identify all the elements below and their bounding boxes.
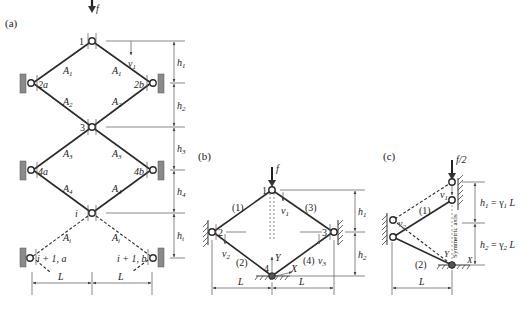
x-axis-arrow-icon [276, 272, 292, 276]
panel-c: (c) f/2 [382, 150, 516, 295]
node-top-displaced [449, 197, 455, 203]
member-label-4: (4) [303, 255, 315, 267]
node-top-original [449, 179, 455, 185]
node-label-i1b: i + 1, b [117, 253, 147, 264]
node-label-2: 2 [218, 227, 223, 238]
member-4 [272, 232, 333, 276]
span-label-left: L [57, 271, 64, 282]
member-label-3: (3) [305, 202, 317, 214]
svg-text:hi: hi [177, 230, 184, 243]
load-label: f/2 [456, 154, 467, 165]
load-label: f [96, 3, 100, 14]
member-ai-right [92, 213, 152, 257]
wall-support-i1a [20, 248, 26, 267]
load-arrow-icon [448, 160, 456, 180]
member-label-1: (1) [419, 205, 431, 217]
node-2b [150, 80, 156, 86]
node-base [449, 262, 456, 269]
svg-text:Ai: Ai [111, 232, 120, 245]
member-label-1: (1) [232, 202, 244, 214]
span-label-left: L [237, 276, 244, 287]
panel-b: (b) f [198, 150, 367, 295]
member-ai-left [32, 213, 92, 257]
node-label-2a: 2a [38, 79, 48, 90]
wall-support-i1b [158, 248, 164, 267]
node-1 [89, 38, 95, 44]
node-3 [89, 124, 95, 130]
span-dimensions [32, 272, 152, 295]
node-2a [28, 80, 34, 86]
node-label-1: 1 [79, 36, 84, 47]
truss-diagram: (a) f [0, 0, 530, 310]
node-i1a [27, 255, 33, 261]
v1-label: v1 [440, 189, 448, 202]
node-label-i: i [75, 208, 78, 219]
member-label-2: (2) [236, 257, 248, 269]
load-label: f [276, 163, 280, 174]
svg-text:h1: h1 [177, 57, 186, 70]
h2-equation: h2 = γ2 L [480, 239, 516, 252]
svg-text:A1: A1 [62, 65, 73, 78]
span-label-right: L [298, 276, 305, 287]
svg-text:A3: A3 [111, 148, 122, 161]
v2-label: v2 [398, 218, 406, 231]
member-a1-left [33, 41, 92, 83]
panel-a-label: (a) [5, 17, 18, 30]
panel-c-label: (c) [383, 150, 396, 163]
node-i [89, 210, 95, 216]
panel-b-label: (b) [198, 150, 211, 163]
node-label-i1a: i + 1, a [37, 253, 67, 264]
node-label-1: 1 [262, 185, 267, 196]
wall-support-4a [20, 161, 26, 180]
svg-text:A2: A2 [62, 96, 73, 109]
node-2-displaced [390, 234, 396, 240]
wall-support-2b [158, 74, 164, 93]
svg-text:A4: A4 [62, 183, 73, 196]
v1-label: v1 [128, 58, 136, 71]
x-axis-label: X [466, 255, 473, 265]
node-label-4a: 4a [38, 166, 48, 177]
svg-text:Ai: Ai [62, 232, 71, 245]
node-label-4b: 4b [134, 166, 144, 177]
load-arrow-icon [88, 0, 96, 13]
h2-label: h2 [358, 249, 367, 262]
svg-text:A4: A4 [111, 183, 122, 196]
node-i1b [150, 255, 156, 261]
load-arrow-icon [268, 167, 276, 187]
wall-hatch-left [203, 220, 208, 247]
node-label-2b: 2b [134, 79, 144, 90]
span-label-right: L [117, 271, 124, 282]
node-2 [209, 229, 215, 235]
svg-text:h2: h2 [177, 100, 186, 113]
wall-support-2a [20, 74, 26, 93]
node-4a [28, 167, 34, 173]
y-axis-label: Y [275, 252, 282, 263]
panel-a: (a) f [5, 0, 186, 295]
wall-hatch-left [382, 213, 387, 245]
node-1 [269, 187, 275, 193]
wall-hatch-right [338, 220, 343, 245]
node-4b [150, 167, 156, 173]
node-3 [331, 229, 337, 235]
v3-label: v3 [318, 255, 326, 268]
svg-text:A1: A1 [111, 65, 122, 78]
node-label-3: 3 [80, 122, 85, 133]
span-label: L [418, 276, 425, 287]
h1-label: h1 [358, 206, 367, 219]
roller-wall-hatch [458, 175, 463, 210]
member-a3-right [92, 127, 151, 170]
node-2-original [390, 217, 396, 223]
y-axis-label: Y [444, 249, 450, 259]
h1-equation: h1 = γ1 L [480, 197, 516, 210]
node-4 [269, 273, 276, 280]
svg-text:A3: A3 [62, 148, 73, 161]
node-label-4: 4 [264, 263, 269, 274]
svg-text:h3: h3 [177, 143, 186, 156]
svg-text:h4: h4 [177, 186, 186, 199]
x-axis-label: X [290, 263, 298, 274]
v2-label: v2 [222, 248, 230, 261]
member-label-2: (2) [415, 259, 427, 271]
svg-text:A2: A2 [111, 96, 122, 109]
node-label-3: 3 [322, 227, 327, 238]
wall-support-4b [158, 161, 164, 180]
